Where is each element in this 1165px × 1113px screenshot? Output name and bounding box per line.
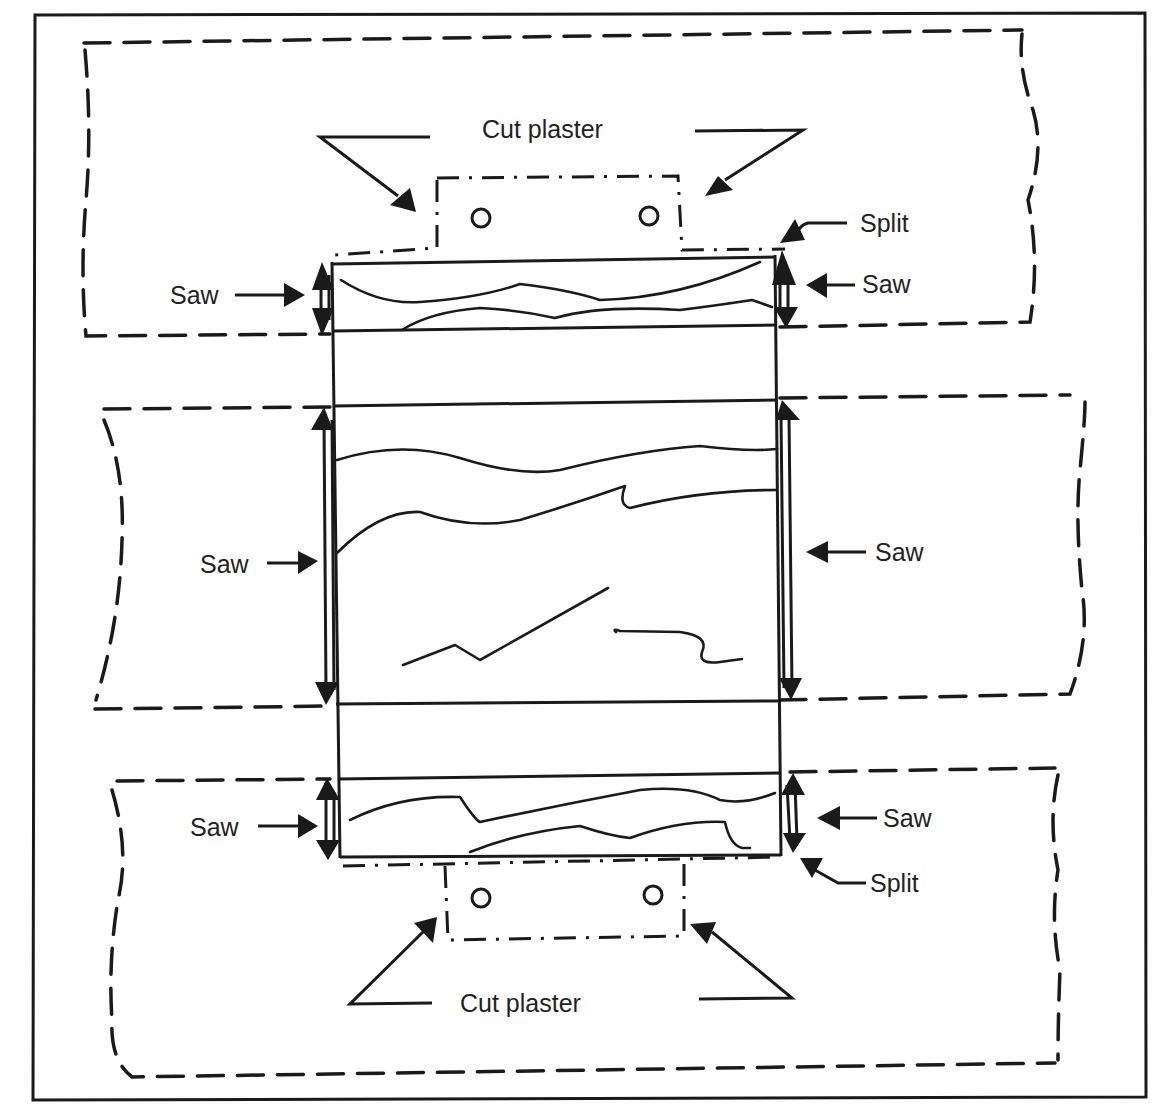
arrowhead-icon [800,858,823,878]
fastener-hole-icon [640,207,658,225]
arrowhead-right-icon [298,814,318,838]
label-cut-plaster-top: Cut plaster [482,115,603,143]
arrowhead-right-icon [284,283,305,307]
arrowhead-up-icon [311,407,333,430]
pointer-cut-plaster-bottom-left [350,917,437,1004]
saw-cut-bottom-right [781,773,806,853]
pointer-cut-plaster-bottom-right [690,922,792,999]
fastener-hole-icon [644,886,662,904]
arrowhead-down-icon [774,307,798,328]
cropped-caption [0,1103,1165,1113]
pointer-split-top [780,219,847,243]
fastener-hole-icon [472,889,490,907]
arrowhead-down-icon [779,678,802,700]
arrowhead-down-icon [316,840,340,860]
label-saw-middle-right: Saw [875,538,925,566]
arrowhead-up-icon [776,400,800,420]
pointer-saw-middle-right [806,541,866,563]
label-saw-bottom-left: Saw [190,813,240,841]
label-saw-bottom-right: Saw [883,804,933,832]
central-specimen [332,255,781,858]
pointer-saw-bottom-left [258,814,318,838]
saw-cut-bottom-left [316,778,340,860]
arrowhead-down-icon [783,833,806,853]
label-saw-top-right: Saw [862,270,912,298]
pointer-cut-plaster-top-left [320,137,430,212]
pointer-split-bottom [800,858,866,883]
label-saw-top-left: Saw [170,281,220,309]
label-split-bottom: Split [870,869,919,897]
arrowhead-left-icon [817,806,840,830]
arrowhead-left-icon [298,551,318,574]
bottom-cut-plaster-tab [343,857,780,940]
pointer-saw-bottom-right [817,806,877,830]
arrowhead-up-icon [316,778,340,800]
fastener-hole-icon [472,209,490,227]
pointer-saw-top-right [806,273,855,298]
label-split-top: Split [860,209,909,237]
arrowhead-left-icon [806,273,827,298]
label-cut-plaster-bottom: Cut plaster [460,989,581,1017]
pointer-saw-top-left [235,283,305,307]
arrowhead-up-icon [781,773,805,795]
arrowhead-down-icon [312,308,334,336]
diagram-canvas: Cut plaster Cut plaster Split Split Saw … [0,0,1165,1113]
arrowhead-icon [780,219,805,243]
label-saw-middle-left: Saw [200,550,250,578]
arrowhead-left-icon [806,541,828,563]
pointer-saw-middle-left [267,551,318,574]
pointer-cut-plaster-top-right [695,130,803,196]
arrowhead-down-icon [315,682,339,705]
